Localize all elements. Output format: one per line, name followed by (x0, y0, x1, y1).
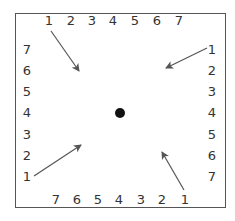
arrow-bottom-right-icon (162, 152, 184, 190)
arrow-top-right-icon (166, 48, 207, 68)
diagram-canvas: 1234567 1234567 7654321 7654321 (0, 0, 235, 221)
arrow-top-left-icon (51, 31, 79, 71)
arrow-bottom-left-icon (34, 145, 81, 176)
center-fixation-dot (115, 108, 125, 118)
arrows-and-dot-layer (0, 0, 235, 221)
